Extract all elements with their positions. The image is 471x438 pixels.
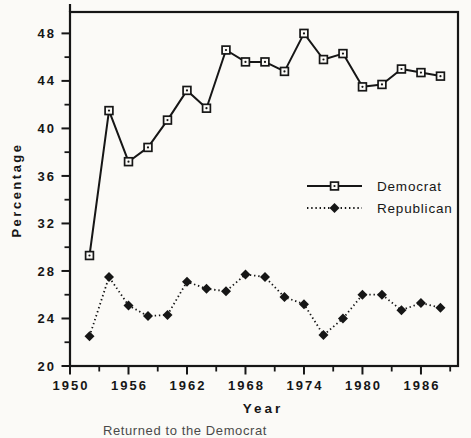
democrat-marker-dot — [205, 107, 207, 109]
x-tick-label: 1980 — [345, 378, 382, 393]
caption-fragment-clipped: Returned to the Democrat — [103, 423, 267, 438]
republican-marker — [104, 272, 114, 282]
republican-marker — [396, 305, 406, 315]
democrat-marker-dot — [303, 32, 305, 34]
democrat-marker-dot — [127, 161, 129, 163]
democrat-marker-dot — [400, 68, 402, 70]
republican-line — [90, 275, 441, 337]
republican-marker — [240, 270, 250, 280]
republican-marker — [299, 299, 309, 309]
legend-democrat-marker-dot — [333, 185, 335, 187]
republican-marker — [123, 300, 133, 310]
republican-marker — [260, 272, 270, 282]
democrat-marker-dot — [264, 61, 266, 63]
y-axis-title: Percentage — [9, 142, 24, 237]
y-tick-label: 48 — [38, 26, 56, 41]
democrat-marker-dot — [322, 58, 324, 60]
y-tick-label: 44 — [38, 73, 56, 88]
republican-marker — [162, 310, 172, 320]
x-tick-label: 1986 — [403, 378, 440, 393]
x-tick-label: 1974 — [287, 378, 324, 393]
democrat-marker-dot — [88, 254, 90, 256]
republican-marker — [416, 298, 426, 308]
y-tick-label: 40 — [38, 121, 56, 136]
democrat-marker-dot — [381, 83, 383, 85]
republican-marker — [182, 277, 192, 287]
x-tick-label: 1962 — [170, 378, 207, 393]
democrat-marker-dot — [244, 61, 246, 63]
y-tick-label: 32 — [38, 216, 56, 231]
democrat-marker-dot — [166, 119, 168, 121]
republican-marker — [201, 284, 211, 294]
republican-marker — [143, 311, 153, 321]
legend-democrat-label: Democrat — [377, 179, 442, 194]
y-tick-label: 36 — [38, 169, 56, 184]
legend-republican-marker — [330, 203, 340, 213]
democrat-marker-dot — [147, 146, 149, 148]
democrat-marker-dot — [283, 70, 285, 72]
democrat-marker-dot — [225, 49, 227, 51]
democrat-marker-dot — [342, 52, 344, 54]
democrat-marker-dot — [361, 86, 363, 88]
y-tick-label: 24 — [38, 311, 56, 326]
x-tick-label: 1968 — [228, 378, 265, 393]
republican-marker — [84, 331, 94, 341]
x-tick-label: 1956 — [111, 378, 148, 393]
x-tick-label: 1950 — [53, 378, 90, 393]
legend-republican-label: Republican — [377, 201, 453, 216]
democrat-line — [90, 33, 441, 255]
republican-marker — [435, 303, 445, 313]
y-tick-label: 28 — [38, 264, 56, 279]
x-axis-title: Year — [243, 401, 284, 416]
democrat-marker-dot — [186, 89, 188, 91]
democrat-marker-dot — [439, 75, 441, 77]
democrat-marker-dot — [108, 109, 110, 111]
y-tick-label: 20 — [38, 359, 56, 374]
democrat-marker-dot — [420, 71, 422, 73]
